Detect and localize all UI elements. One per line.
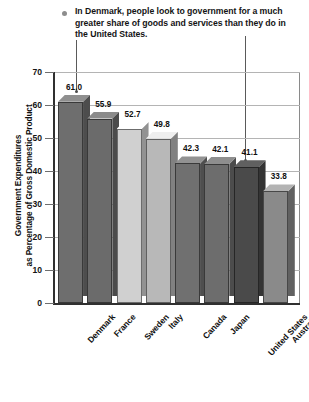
bar-value-label: 55.9 <box>83 101 123 109</box>
bar-front-face <box>175 163 200 303</box>
x-axis-line <box>53 303 300 305</box>
y-axis-title: Government Expenditures as Percentage of… <box>13 79 34 293</box>
x-label-sweden: Sweden <box>142 312 171 342</box>
gridline-70 <box>55 72 300 73</box>
x-label-italy: Italy <box>167 312 186 331</box>
tick-70 <box>45 72 54 73</box>
bar-front-face <box>146 139 171 303</box>
x-label-canada: Canada <box>200 312 228 341</box>
tick-60 <box>45 105 54 106</box>
bar-front-face <box>87 119 112 303</box>
bar-front-face <box>234 167 259 303</box>
y-axis-title-line2: as Percentage of Gross Domestic Product <box>23 104 33 266</box>
tick-label-0: 0 <box>22 299 42 308</box>
x-label-denmark: Denmark <box>85 312 117 345</box>
bar-front-face <box>204 164 229 303</box>
bar-front-face <box>117 129 142 303</box>
tick-20 <box>45 237 54 238</box>
bar-value-label: 41.1 <box>230 149 270 157</box>
bar-value-label: 52.7 <box>113 111 153 119</box>
bar-front-face <box>58 102 83 303</box>
tick-40 <box>45 171 54 172</box>
bar-side-face <box>288 184 295 296</box>
bars-layer: 61.055.952.749.842.342.141.133.8 <box>0 0 309 402</box>
tick-50 <box>45 138 54 139</box>
bar-value-label: 49.8 <box>142 121 182 129</box>
bar-value-label: 61.0 <box>54 84 94 92</box>
tick-0 <box>45 303 54 304</box>
bar-value-label: 33.8 <box>259 173 299 181</box>
bullet-icon <box>62 11 67 16</box>
tick-10 <box>45 270 54 271</box>
caption-text: In Denmark, people look to government fo… <box>75 6 294 41</box>
x-label-japan: Japan <box>227 312 251 336</box>
tick-30 <box>45 204 54 205</box>
tick-label-70: 70 <box>22 68 42 77</box>
y-axis-title-line1: Government Expenditures <box>13 135 23 236</box>
bar-front-face <box>263 191 288 303</box>
caption-block: In Denmark, people look to government fo… <box>62 6 294 41</box>
